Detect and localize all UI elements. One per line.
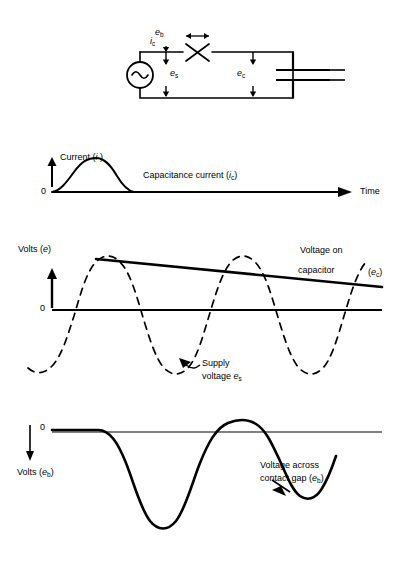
open-contact-cross-icon [186,44,209,61]
capacitor-right-leads [330,70,345,80]
voltage-y-axis-label: Volts (e) [18,244,51,255]
circuit-ic-label: ic [150,36,155,47]
es-voltage-arrows [163,52,169,97]
current-y-axis-label: Current (i ) [60,152,103,163]
ic-current-arrow [163,46,169,52]
capacitor-voltage-var-label: (ec) [368,267,382,278]
ac-source-symbol [127,62,153,88]
eb-measure-arrow [186,33,209,39]
ec-voltage-arrows [250,52,256,97]
capacitor-voltage-line [96,259,382,287]
circuit-diagram [140,52,293,98]
gap-annotation-line1: Voltage across [260,460,319,471]
waveform-figure: eb ic es ec Current (i ) 0 Capacitance c… [0,0,405,565]
circuit-eb-label: eb [155,27,164,38]
current-origin-label: 0 [41,186,46,197]
supply-label-leader [179,358,200,368]
wire-bottom [140,88,293,98]
gap-origin-label: 0 [40,422,45,433]
gap-annotation-line2: contact gap (eb) [260,473,324,484]
capacitor-symbol [276,52,330,98]
supply-voltage-label-line1: Supply [202,358,230,369]
capacitor-voltage-label-line2: capacitor [298,265,335,276]
circuit-ec-label: ec [237,68,245,79]
gap-y-axis-label: Volts (eb) [17,467,54,478]
supply-voltage-label-line2: voltage es [202,371,242,382]
circuit-es-label: es [170,68,178,79]
capacitor-voltage-label-line1: Voltage on [300,245,343,256]
voltage-origin-label: 0 [40,303,45,314]
capacitance-current-curve-label: Capacitance current (ic) [143,170,237,181]
figure-vector-layer [0,0,405,565]
current-x-axis-label: Time [360,186,380,197]
